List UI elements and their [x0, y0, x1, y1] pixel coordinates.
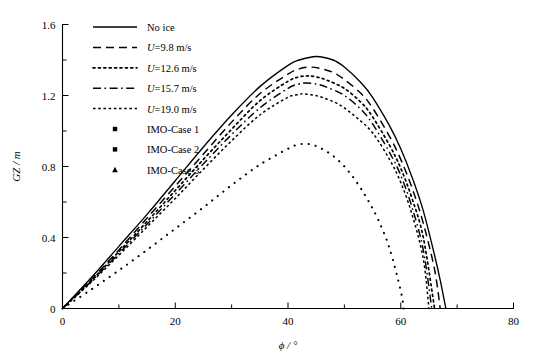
legend: No iceU=9.8 m/sU=12.6 m/sU=15.7 m/sU=19.… [93, 22, 199, 176]
curve-imo-case-3-curve [63, 144, 404, 309]
y-tick-label: 0.4 [42, 232, 56, 244]
x-tick-label: 20 [170, 315, 182, 327]
curve-u-9-8-m-s [63, 67, 441, 308]
chart-container: 00.40.81.21.6020406080 GZ / mϕ / ° No ic… [0, 0, 543, 358]
legend-label: U=9.8 m/s [147, 42, 191, 53]
legend-triangle-marker-icon [112, 167, 118, 172]
y-tick-label: 1.2 [42, 90, 56, 102]
x-tick-label: 60 [395, 315, 407, 327]
y-axis-title: GZ / m [10, 151, 22, 182]
legend-label: IMO-Case 3 [147, 165, 199, 176]
curve-u-12-6-m-s [63, 76, 435, 309]
curve-u-15-7-m-s [63, 83, 432, 308]
curve-no-ice [63, 56, 446, 308]
legend-square-marker-icon [113, 147, 117, 151]
gz-curve-chart: 00.40.81.21.6020406080 GZ / mϕ / ° No ic… [0, 0, 543, 358]
tick-labels: 00.40.81.21.6020406080 [42, 19, 520, 327]
legend-square-marker-icon [113, 127, 117, 131]
legend-label: IMO-Case 2 [147, 144, 199, 155]
y-tick-label: 1.6 [42, 19, 56, 31]
axis-frame [63, 25, 514, 309]
legend-label: No ice [147, 22, 175, 33]
legend-label: IMO-Case 1 [147, 124, 199, 135]
curve-series [63, 56, 446, 308]
axes [63, 25, 514, 309]
x-tick-label: 40 [283, 315, 295, 327]
y-tick-label: 0.8 [42, 161, 56, 173]
x-tick-label: 0 [60, 315, 66, 327]
x-tick-label: 80 [508, 315, 520, 327]
legend-label: U=19.0 m/s [147, 104, 197, 115]
legend-label: U=15.7 m/s [147, 83, 197, 94]
y-tick-label: 0 [50, 303, 56, 315]
x-axis-title: ϕ / ° [279, 339, 298, 351]
legend-label: U=12.6 m/s [147, 63, 197, 74]
axis-titles: GZ / mϕ / ° [10, 151, 298, 350]
